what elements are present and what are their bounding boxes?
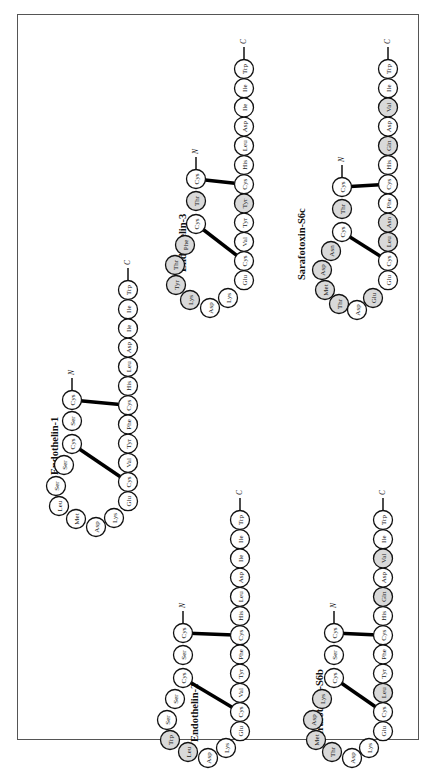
- residue-label: Asp: [93, 521, 101, 533]
- residue-label: Val: [385, 103, 393, 112]
- residue-label: Cys: [237, 629, 245, 640]
- residue-label: Ile: [241, 85, 249, 92]
- residue-label: Cys: [385, 178, 393, 189]
- residue-label: Asn: [328, 245, 336, 257]
- residue-label: Thr: [336, 298, 344, 309]
- residue-label: Lys: [187, 295, 195, 305]
- residue-label: Asp: [319, 264, 327, 276]
- residue-label: Cys: [380, 706, 388, 717]
- residue-label: Val: [380, 554, 388, 563]
- residue-label: Cys: [69, 394, 77, 405]
- residue-label: His: [385, 160, 393, 170]
- residue-label: Lys: [223, 743, 231, 753]
- residue-label: His: [125, 381, 133, 391]
- residue-label: Asp: [310, 714, 318, 726]
- n-terminus-label: N: [191, 148, 200, 155]
- peptide-endothelin-1: NCCysSerCysSerSerLeuMetAspLysGluCysValTy…: [47, 259, 138, 537]
- residue-label: Leu: [385, 236, 393, 247]
- residue-label: Lys: [225, 293, 233, 303]
- title-sarafotoxin-s6c: Sarafotoxin-S6c: [296, 208, 307, 280]
- residue-label: Gln: [380, 591, 388, 602]
- residue-label: Trp: [125, 285, 133, 295]
- residue-label: His: [241, 160, 249, 170]
- residue-label: Cys: [237, 706, 245, 717]
- residue-label: Cys: [331, 627, 339, 638]
- residue-label: Asp: [125, 341, 133, 353]
- residue-label: Asp: [349, 752, 357, 764]
- residue-label: Ile: [125, 325, 133, 332]
- residue-label: Tyr: [380, 668, 388, 678]
- residue-label: Leu: [380, 687, 388, 698]
- n-terminus-label: N: [67, 369, 76, 376]
- residue-label: Trp: [167, 735, 175, 745]
- residue-label: Asn: [385, 216, 393, 228]
- residue-label: Thr: [172, 259, 180, 270]
- residue-label: Leu: [237, 591, 245, 602]
- residue-label: Asp: [241, 120, 249, 132]
- residue-label: Tyr: [173, 280, 181, 290]
- n-terminus-label: N: [178, 602, 187, 609]
- residue-label: Trp: [241, 64, 249, 74]
- residue-label: His: [237, 611, 245, 621]
- residue-label: Tyr: [241, 198, 249, 208]
- residue-label: Ile: [125, 306, 133, 313]
- residue-label: Ser: [180, 650, 188, 660]
- residue-label: Phe: [385, 198, 393, 209]
- residue-label: Phe: [182, 240, 190, 251]
- residue-label: Val: [241, 237, 249, 246]
- residue-label: Ile: [237, 536, 245, 543]
- residue-label: Lys: [319, 694, 327, 704]
- residue-label: Cys: [380, 629, 388, 640]
- title-endothelin-2: Endothelin-2: [189, 684, 200, 742]
- peptide-sarafotoxin-s6b: NCCysSerCysLysAspMetThrAspLysGluCysLeuTy…: [304, 489, 393, 768]
- peptide-endothelin-3: NCCysThrCysPheThrTyrLysAspLysGluCysValTy…: [166, 38, 254, 318]
- n-terminus-label: N: [329, 602, 338, 609]
- residue-label: Met: [313, 734, 321, 745]
- residue-label: Thr: [329, 746, 337, 757]
- residue-label: Tyr: [125, 438, 133, 448]
- residue-label: Leu: [56, 500, 64, 511]
- residue-label: Cys: [180, 627, 188, 638]
- residue-label: Cys: [125, 399, 133, 410]
- residue-label: Ser: [53, 481, 61, 491]
- residue-label: Tyr: [237, 668, 245, 678]
- residue-label: Asp: [237, 571, 245, 583]
- residue-label: Ser: [172, 694, 180, 704]
- residue-label: Leu: [125, 361, 133, 372]
- residue-label: Cys: [69, 438, 77, 449]
- residue-label: Trp: [237, 515, 245, 525]
- residue-label: Ile: [237, 555, 245, 562]
- residue-label: Cys: [193, 173, 201, 184]
- c-terminus-label: C: [378, 489, 387, 495]
- residue-label: Glu: [237, 725, 245, 736]
- residue-label: His: [380, 611, 388, 621]
- residue-label: Ser: [69, 416, 77, 426]
- residue-label: Cys: [339, 181, 347, 192]
- residue-label: Thr: [339, 203, 347, 214]
- residue-label: Leu: [241, 140, 249, 151]
- residue-label: Asp: [385, 120, 393, 132]
- residue-label: Cys: [241, 178, 249, 189]
- peptide-sarafotoxin-s6c: NCCysThrCysAsnAspMetThrAspGluGluCysLeuAs…: [313, 38, 398, 320]
- residue-label: Ile: [380, 536, 388, 543]
- residue-label: Glu: [370, 292, 378, 303]
- peptide-endothelin-2: NCCysSerCysSerSerTrpLeuAspLysGluCysValTy…: [158, 489, 250, 768]
- residue-label: Phe: [380, 649, 388, 660]
- residue-label: Met: [73, 513, 81, 524]
- residue-label: Cys: [125, 476, 133, 487]
- residue-label: Phe: [237, 649, 245, 660]
- c-terminus-label: C: [123, 259, 132, 265]
- residue-label: Trp: [385, 64, 393, 74]
- residue-label: Glu: [241, 274, 249, 285]
- residue-label: Gln: [385, 140, 393, 151]
- residue-label: Cys: [339, 226, 347, 237]
- residue-label: Cys: [241, 255, 249, 266]
- c-terminus-label: C: [383, 38, 392, 44]
- residue-label: Trp: [380, 515, 388, 525]
- residue-label: Cys: [385, 255, 393, 266]
- residue-label: Val: [125, 458, 133, 467]
- residue-label: Glu: [125, 495, 133, 506]
- peptide-structure-diagram: Endothelin-1 Endothelin-2 Endothelin-3 S…: [0, 0, 430, 780]
- n-terminus-label: N: [337, 156, 346, 163]
- residue-label: Val: [237, 688, 245, 697]
